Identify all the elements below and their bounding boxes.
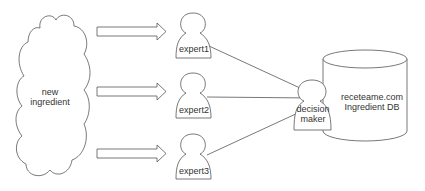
database-label-line2: Ingredient DB [335,102,409,112]
edge-expert1-decision [209,46,313,94]
decision-maker-label: decision maker [293,104,333,124]
expert2-label: expert2 [177,105,211,115]
edge-expert2-decision [207,97,314,98]
decision-maker-line1: decision [293,104,333,114]
expert1-label: expert1 [177,44,211,54]
block-arrow-1 [97,23,166,40]
block-arrow-2 [97,83,166,100]
database-label-line1: receteame.com [335,92,409,102]
source-label-line1: new [20,87,80,97]
expert3-label: expert3 [177,166,211,176]
database-label: receteame.com Ingredient DB [335,92,409,112]
block-arrow-3 [97,145,166,162]
source-label: new ingredient [20,87,80,107]
source-label-line2: ingredient [20,97,80,107]
decision-maker-line2: maker [293,114,333,124]
